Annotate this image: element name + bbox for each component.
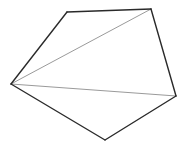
edge-EA xyxy=(11,84,105,140)
edge-BC xyxy=(67,9,151,12)
diagram-canvas xyxy=(0,0,185,150)
pentagon-edges xyxy=(11,9,176,140)
pentagon-diagram xyxy=(0,0,185,150)
edge-AB xyxy=(11,12,67,84)
edge-CD xyxy=(151,9,176,96)
edge-DE xyxy=(105,96,176,140)
diagonal-AC xyxy=(11,9,151,84)
diagonal-AD xyxy=(11,84,176,96)
